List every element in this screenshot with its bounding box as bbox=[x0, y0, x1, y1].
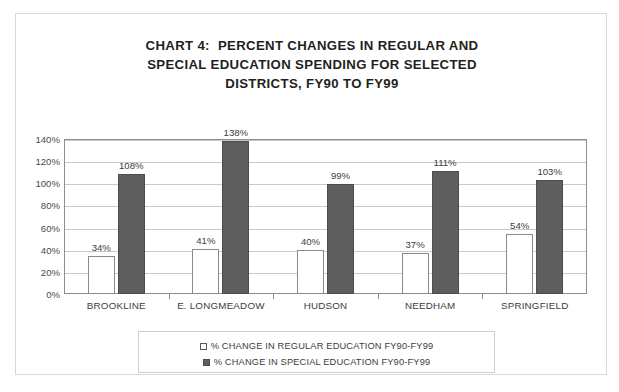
bar-regular-e-longmeadow[interactable] bbox=[192, 249, 219, 294]
chart-title: CHART 4: PERCENT CHANGES IN REGULAR AND … bbox=[16, 36, 608, 93]
y-axis-tick-label: 40% bbox=[16, 244, 60, 255]
y-axis-tick-label: 100% bbox=[16, 178, 60, 189]
bar-regular-hudson[interactable] bbox=[297, 250, 324, 294]
chart-title-line-1: CHART 4: PERCENT CHANGES IN REGULAR AND bbox=[16, 36, 608, 55]
legend-swatch-regular-icon bbox=[200, 343, 207, 350]
chart-title-line-3: DISTRICTS, FY90 TO FY99 bbox=[16, 74, 608, 93]
y-axis-tick-label: 60% bbox=[16, 222, 60, 233]
x-axis-category-label: NEEDHAM bbox=[405, 300, 455, 311]
y-axis-tick-label: 140% bbox=[16, 134, 60, 145]
bar-regular-brookline[interactable] bbox=[88, 256, 115, 294]
x-axis-category-label: BROOKLINE bbox=[87, 300, 146, 311]
bar-value-label: 99% bbox=[331, 170, 350, 181]
bar-value-label: 41% bbox=[196, 235, 215, 246]
legend-item-special: % CHANGE IN SPECIAL EDUCATION FY90-FY99 bbox=[139, 355, 494, 369]
x-axis-category-label: SPRINGFIELD bbox=[501, 300, 569, 311]
bar-value-label: 103% bbox=[537, 166, 562, 177]
bar-special-needham[interactable] bbox=[432, 171, 459, 294]
legend-label-special: % CHANGE IN SPECIAL EDUCATION FY90-FY99 bbox=[214, 357, 431, 367]
bar-value-label: 54% bbox=[510, 220, 529, 231]
legend-label-regular: % CHANGE IN REGULAR EDUCATION FY90-FY99 bbox=[211, 341, 434, 351]
bar-regular-needham[interactable] bbox=[402, 253, 429, 294]
bar-special-brookline[interactable] bbox=[118, 174, 145, 294]
y-axis-tick-label: 120% bbox=[16, 156, 60, 167]
y-axis-tick-label: 20% bbox=[16, 266, 60, 277]
bar-special-e-longmeadow[interactable] bbox=[222, 141, 249, 294]
x-axis-tick bbox=[169, 294, 170, 299]
bars-layer: 34%108%41%138%40%99%37%111%54%103% bbox=[64, 139, 587, 294]
legend-swatch-special-icon bbox=[203, 359, 210, 366]
bar-value-label: 138% bbox=[224, 127, 249, 138]
bar-value-label: 37% bbox=[405, 239, 424, 250]
bar-regular-springfield[interactable] bbox=[506, 234, 533, 294]
x-axis-tick bbox=[482, 294, 483, 299]
x-axis-tick bbox=[378, 294, 379, 299]
chart-legend: % CHANGE IN REGULAR EDUCATION FY90-FY99 … bbox=[138, 331, 495, 373]
x-axis-labels: BROOKLINEE. LONGMEADOWHUDSONNEEDHAMSPRIN… bbox=[64, 300, 587, 316]
bar-special-hudson[interactable] bbox=[327, 184, 354, 294]
bar-value-label: 111% bbox=[434, 157, 457, 168]
x-axis-tick bbox=[273, 294, 274, 299]
bar-value-label: 108% bbox=[119, 160, 144, 171]
y-axis-tick-label: 0% bbox=[16, 289, 60, 300]
y-axis-tick-label: 80% bbox=[16, 200, 60, 211]
legend-item-regular: % CHANGE IN REGULAR EDUCATION FY90-FY99 bbox=[139, 339, 494, 353]
bar-value-label: 40% bbox=[301, 236, 320, 247]
y-axis: 0%20%40%60%80%100%120%140% bbox=[16, 139, 60, 294]
x-axis-category-label: E. LONGMEADOW bbox=[177, 300, 265, 311]
bar-special-springfield[interactable] bbox=[536, 180, 563, 294]
x-axis-ticks bbox=[64, 294, 587, 299]
x-axis-category-label: HUDSON bbox=[304, 300, 348, 311]
chart-frame: CHART 4: PERCENT CHANGES IN REGULAR AND … bbox=[15, 13, 607, 375]
bar-value-label: 34% bbox=[92, 242, 111, 253]
chart-title-line-2: SPECIAL EDUCATION SPENDING FOR SELECTED bbox=[16, 55, 608, 74]
